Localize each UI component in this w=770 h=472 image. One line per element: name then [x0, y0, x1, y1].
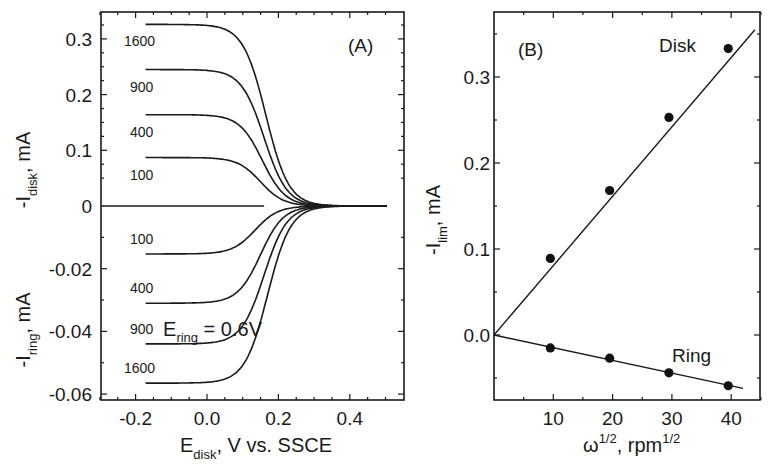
y-tick-label-ring: -0.02: [49, 259, 92, 280]
y-tick-label-disk: 0.3: [66, 29, 92, 50]
fit-line-disk: [494, 30, 755, 335]
data-point-ring: [546, 343, 555, 352]
x-tick-label: -0.2: [119, 408, 152, 429]
curve-disk-900: [146, 70, 387, 207]
curve-label: 100: [130, 231, 154, 247]
y-tick-label-disk: 0.1: [66, 140, 92, 161]
curve-disk-400: [146, 115, 387, 206]
curve-ring-900: [146, 206, 387, 344]
curve-label: 1600: [124, 360, 155, 376]
y-axis-title-ring: -Iring, mA: [12, 292, 40, 368]
curve-label: 400: [130, 124, 154, 140]
curve-label: 100: [130, 167, 154, 183]
curve-label: 400: [130, 280, 154, 296]
x-tick-label: 0.0: [194, 408, 220, 429]
x-axis-title-a: Edisk, V vs. SSCE: [180, 434, 332, 462]
data-point-disk: [605, 186, 614, 195]
x-tick-label-b: 30: [661, 408, 682, 429]
y-tick-label-ring: -0.04: [49, 321, 93, 342]
y-tick-label-ring: -0.06: [49, 384, 92, 405]
x-axis-title-b: ω1/2, rpm1/2: [583, 431, 680, 456]
panel-a: -0.20.00.20.40.30.20.10-0.02-0.04-0.06 1…: [12, 12, 404, 462]
y-axis-title-disk: -Idisk, mA: [12, 131, 40, 208]
panel-b-label: (B): [518, 39, 543, 60]
y-tick-label-b: 0.3: [464, 67, 490, 88]
curve-label: 900: [130, 79, 154, 95]
disk-series-label: Disk: [659, 35, 696, 56]
curve-label: 900: [130, 321, 154, 337]
panel-a-label: (A): [348, 35, 373, 56]
x-tick-label: 0.2: [265, 408, 291, 429]
x-tick-label-b: 40: [721, 408, 742, 429]
y-tick-label-b: 0.0: [464, 325, 490, 346]
e-ring-annotation: Ering = 0.6V: [163, 318, 263, 345]
panel-b: 102030400.30.20.10.0 (B) Disk Ring ω1/2,…: [422, 12, 761, 456]
panel-a-labels: 16009004001001004009001600: [124, 33, 155, 376]
y-tick-label-disk: 0.2: [66, 85, 92, 106]
data-point-ring: [664, 368, 673, 377]
x-tick-label-b: 10: [543, 408, 564, 429]
y-tick-label-b: 0.1: [464, 239, 490, 260]
data-point-ring: [605, 354, 614, 363]
data-point-disk: [664, 113, 673, 122]
figure: -0.20.00.20.40.30.20.10-0.02-0.04-0.06 1…: [0, 0, 770, 472]
x-tick-label: 0.4: [337, 408, 364, 429]
y-tick-label-disk: 0: [81, 196, 92, 217]
x-tick-label-b: 20: [602, 408, 623, 429]
curve-label: 1600: [124, 33, 155, 49]
ring-series-label: Ring: [672, 345, 711, 366]
curve-ring-100: [146, 206, 387, 254]
curve-ring-1600: [146, 206, 387, 383]
panel-b-data: [494, 30, 755, 391]
y-axis-title-b: -Ilim, mA: [422, 184, 450, 255]
data-point-ring: [724, 381, 733, 390]
y-tick-label-b: 0.2: [464, 153, 490, 174]
data-point-disk: [546, 254, 555, 263]
data-point-disk: [724, 44, 733, 53]
curve-disk-100: [146, 158, 387, 207]
